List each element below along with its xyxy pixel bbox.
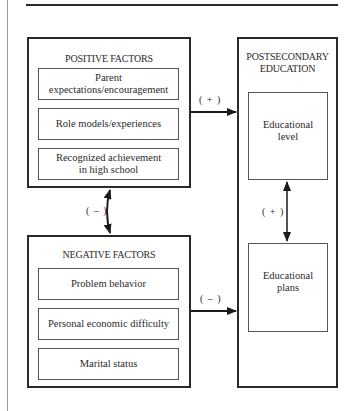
- positive-relation-label: ( + ): [199, 94, 221, 105]
- negative-relation-label: ( – ): [200, 293, 222, 304]
- arrows-layer: [0, 0, 357, 411]
- level-plans-relation-label: ( + ): [262, 206, 284, 217]
- positive-negative-relation-label: ( – ): [86, 205, 108, 216]
